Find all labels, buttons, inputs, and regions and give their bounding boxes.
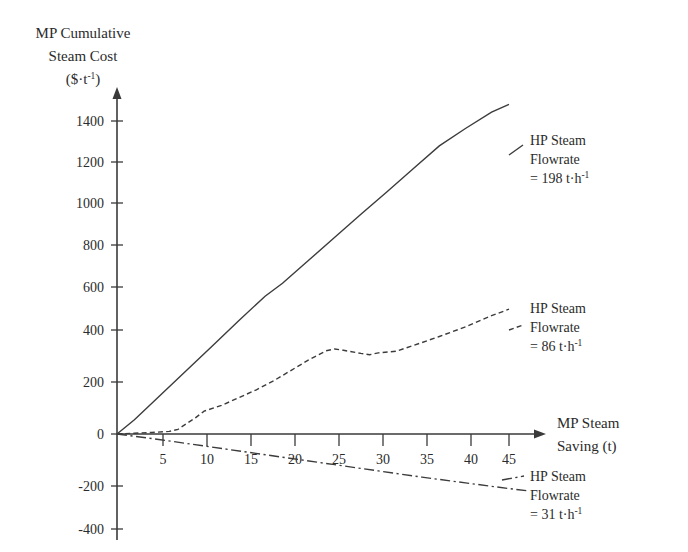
annotation-86-line3: = 86 t·h-1 xyxy=(530,338,583,354)
series-line-86 xyxy=(117,309,509,434)
leader-line-31 xyxy=(502,476,524,480)
x-axis-tick-labels: 5 10 15 20 25 30 35 40 45 xyxy=(160,452,517,467)
y-axis-unit-base: ($·t xyxy=(66,71,88,88)
y-tick-label-6: 200 xyxy=(83,375,104,390)
annotation-31-value: = 31 t·h xyxy=(530,507,574,522)
x-axis-ticks xyxy=(163,434,509,446)
annotation-series-198: HP Steam Flowrate = 198 t·h-1 xyxy=(530,133,590,186)
y-tick-label-5: 400 xyxy=(83,323,104,338)
leader-line-198 xyxy=(509,145,523,155)
annotation-198-line1: HP Steam xyxy=(530,133,586,148)
x-tick-label-0: 5 xyxy=(160,452,167,467)
y-axis-tick-labels: 1400 1200 1000 800 600 400 200 0 -200 -4… xyxy=(76,114,104,537)
annotation-198-superscript: -1 xyxy=(581,170,589,180)
x-tick-label-6: 35 xyxy=(420,452,434,467)
y-axis-title-line3: ($·t-1) xyxy=(66,71,101,88)
annotation-198-line3: = 198 t·h-1 xyxy=(530,170,590,186)
series-line-198 xyxy=(117,104,509,434)
annotation-198-line2: Flowrate xyxy=(530,152,580,167)
annotation-31-line3: = 31 t·h-1 xyxy=(530,506,583,522)
annotation-series-86: HP Steam Flowrate = 86 t·h-1 xyxy=(530,301,586,354)
x-tick-label-8: 45 xyxy=(502,452,516,467)
y-tick-label-9: -400 xyxy=(78,522,104,537)
y-tick-label-8: -200 xyxy=(78,479,104,494)
annotation-31-line2: Flowrate xyxy=(530,488,580,503)
annotation-series-31: HP Steam Flowrate = 31 t·h-1 xyxy=(530,469,586,522)
annotation-86-value: = 86 t·h xyxy=(530,339,574,354)
axis-lines xyxy=(113,87,547,540)
chart-figure: MP Cumulative Steam Cost ($·t-1) MP Stea… xyxy=(0,0,688,552)
x-tick-label-7: 40 xyxy=(464,452,478,467)
x-tick-label-1: 10 xyxy=(200,452,214,467)
annotation-86-line1: HP Steam xyxy=(530,301,586,316)
annotation-198-value: = 198 t·h xyxy=(530,171,581,186)
x-axis-arrow-icon xyxy=(534,430,546,439)
y-tick-label-1: 1200 xyxy=(76,155,104,170)
y-tick-label-0: 1400 xyxy=(76,114,104,129)
y-tick-label-7: 0 xyxy=(97,427,104,442)
y-axis-title-line2: Steam Cost xyxy=(49,48,119,64)
chart-canvas: MP Cumulative Steam Cost ($·t-1) MP Stea… xyxy=(0,0,688,552)
y-tick-label-3: 800 xyxy=(83,238,104,253)
x-axis-title-line1: MP Steam xyxy=(557,415,620,431)
y-tick-label-2: 1000 xyxy=(76,196,104,211)
annotation-86-line2: Flowrate xyxy=(530,320,580,335)
annotation-31-line1: HP Steam xyxy=(530,469,586,484)
annotation-leaders xyxy=(502,145,524,480)
annotation-86-superscript: -1 xyxy=(574,338,582,348)
x-axis-title: MP Steam Saving (t) xyxy=(557,415,620,455)
y-axis-unit-close: ) xyxy=(95,71,100,88)
annotation-31-superscript: -1 xyxy=(574,506,582,516)
y-axis-arrow-icon xyxy=(113,87,122,99)
x-axis-title-line2: Saving (t) xyxy=(557,438,617,455)
y-axis-title: MP Cumulative Steam Cost ($·t-1) xyxy=(36,25,131,88)
x-tick-label-2: 15 xyxy=(244,452,258,467)
x-tick-label-5: 30 xyxy=(376,452,390,467)
data-series-group xyxy=(117,104,526,490)
leader-line-86 xyxy=(509,325,523,330)
y-tick-label-4: 600 xyxy=(83,280,104,295)
y-axis-title-line1: MP Cumulative xyxy=(36,25,131,41)
